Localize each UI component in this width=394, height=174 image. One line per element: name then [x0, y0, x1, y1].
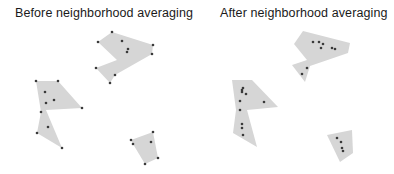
data-point	[322, 43, 325, 46]
data-point	[263, 101, 266, 104]
cluster-polygon-3	[327, 130, 353, 162]
diagram-canvas	[0, 0, 394, 174]
data-point	[40, 111, 43, 114]
data-point	[241, 123, 244, 126]
data-point	[342, 150, 345, 153]
data-point	[81, 107, 84, 110]
data-point	[44, 91, 47, 94]
data-point	[111, 31, 114, 34]
data-point	[239, 100, 242, 103]
data-point	[126, 51, 129, 54]
data-point	[239, 109, 242, 112]
data-point	[144, 163, 147, 166]
data-point	[152, 44, 155, 47]
panel-before	[35, 31, 160, 166]
panel-after	[232, 31, 353, 162]
data-point	[109, 82, 112, 85]
data-point	[127, 48, 130, 51]
cluster-polygon-1	[292, 31, 350, 82]
data-point	[301, 73, 304, 76]
data-point	[97, 41, 100, 44]
data-point	[241, 91, 244, 94]
data-point	[47, 126, 50, 129]
data-point	[61, 147, 64, 150]
data-point	[312, 41, 315, 44]
data-point	[130, 139, 133, 142]
data-point	[242, 134, 245, 137]
data-point	[320, 47, 323, 50]
data-point	[245, 93, 248, 96]
cluster-polygon-1	[96, 32, 153, 83]
data-point	[95, 67, 98, 70]
data-point	[336, 137, 339, 140]
data-point	[35, 80, 38, 83]
data-point	[341, 147, 344, 150]
data-point	[152, 131, 155, 134]
data-point	[53, 99, 56, 102]
data-point	[340, 141, 343, 144]
data-point	[121, 40, 124, 43]
data-point	[241, 127, 244, 130]
data-point	[306, 67, 309, 70]
data-point	[157, 157, 160, 160]
data-point	[45, 102, 48, 105]
data-point	[151, 53, 154, 56]
data-point	[114, 74, 117, 77]
data-point	[57, 80, 60, 83]
data-point	[150, 141, 153, 144]
cluster-polygon-2	[36, 81, 82, 148]
data-point	[36, 132, 39, 135]
data-point	[331, 47, 334, 50]
data-point	[318, 41, 321, 44]
data-point	[132, 143, 135, 146]
cluster-polygon-3	[131, 132, 158, 164]
cluster-polygon-2	[232, 80, 278, 147]
data-point	[334, 48, 337, 51]
